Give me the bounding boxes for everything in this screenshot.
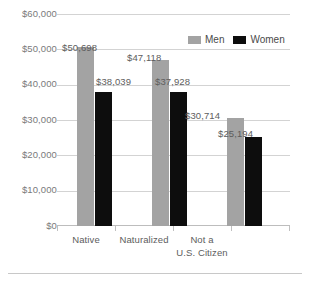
y-axis-tick-label: $30,000	[0, 115, 57, 125]
value-label-women-native: $38,039	[96, 76, 131, 87]
value-label-men-native: $50,698	[62, 42, 97, 53]
bar-women-not-a-us-citizen	[245, 137, 262, 226]
bar-group-naturalized	[152, 14, 187, 226]
y-axis-tick-label: $10,000	[0, 185, 57, 195]
legend-entry-women: Women	[233, 34, 284, 45]
x-axis-category-label-native: Native	[57, 234, 115, 247]
bottom-divider	[8, 273, 302, 274]
x-axis-tick	[173, 226, 174, 231]
bar-chart: $60,000 $50,000 $40,000 $30,000 $20,000 …	[0, 0, 310, 282]
bar-men-native	[77, 47, 94, 226]
y-axis-tick-label: $50,000	[0, 44, 57, 54]
y-axis-tick-label: $40,000	[0, 79, 57, 89]
value-label-women-naturalized: $37,928	[155, 76, 190, 87]
legend-label-men: Men	[205, 34, 224, 45]
x-axis-category-label-naturalized: Naturalized	[115, 234, 173, 247]
value-label-men-not-a-us-citizen: $30,714	[185, 110, 220, 121]
bar-group-not-a-us-citizen	[227, 14, 262, 226]
y-axis-tick-label: $60,000	[0, 9, 57, 19]
x-axis-category-label-not-a-us-citizen: Not a U.S. Citizen	[173, 234, 231, 259]
x-axis-tick	[231, 226, 232, 231]
legend-entry-men: Men	[188, 34, 224, 45]
legend-swatch-women-icon	[233, 36, 246, 44]
y-axis-tick-label: $0	[0, 221, 57, 231]
y-axis-tick-label: $20,000	[0, 150, 57, 160]
x-axis-tick	[115, 226, 116, 231]
bar-women-native	[95, 92, 112, 226]
value-label-women-not-a-us-citizen: $25,194	[218, 128, 253, 139]
legend-swatch-men-icon	[188, 36, 201, 44]
legend-label-women: Women	[250, 34, 284, 45]
x-axis-tick	[289, 226, 290, 231]
value-label-men-naturalized: $47,118	[127, 52, 161, 63]
x-axis-tick	[57, 226, 58, 231]
legend: Men Women	[188, 34, 285, 45]
